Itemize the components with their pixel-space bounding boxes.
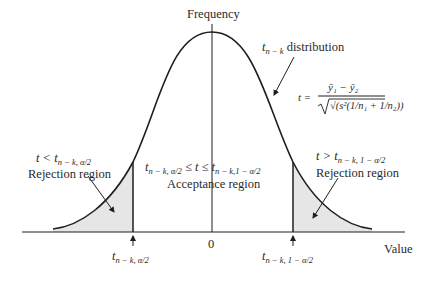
distribution-pointer-arrow	[274, 57, 294, 95]
zero-label: 0	[208, 238, 214, 251]
distribution-label: tn − k distribution	[262, 41, 344, 54]
left-rejection-condition: t < tn − k, α/2	[36, 152, 91, 165]
right-rejection-condition: t > tn − k, 1 − α/2	[316, 150, 385, 163]
left-rejection-label: Rejection region	[28, 168, 111, 181]
right-tick-label: tn − k, 1 − α/2	[262, 250, 313, 263]
acceptance-condition: tn − k, α/2 ≤ t ≤ tn − k,1 − α/2	[145, 161, 260, 174]
acceptance-label: Acceptance region	[167, 178, 260, 191]
y-axis-label: Frequency	[187, 8, 240, 21]
formula-lhs: t =	[298, 92, 311, 103]
formula-numerator: ȳ₁ − ȳ₂	[328, 82, 358, 93]
left-tick-label: tn − k, α/2	[112, 250, 149, 263]
formula-denominator: √(s²(1/n₁ + 1/n₂))	[330, 101, 403, 112]
right-rejection-label: Rejection region	[316, 167, 399, 180]
x-axis-label: Value	[384, 243, 412, 256]
